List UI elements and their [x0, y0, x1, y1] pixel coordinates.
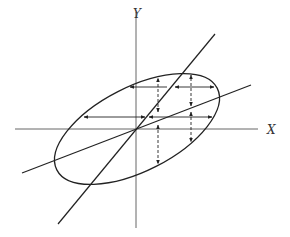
x-axis-label: X — [267, 124, 276, 136]
regression-ellipse-diagram — [0, 0, 290, 237]
y-axis-label: Y — [133, 8, 141, 20]
